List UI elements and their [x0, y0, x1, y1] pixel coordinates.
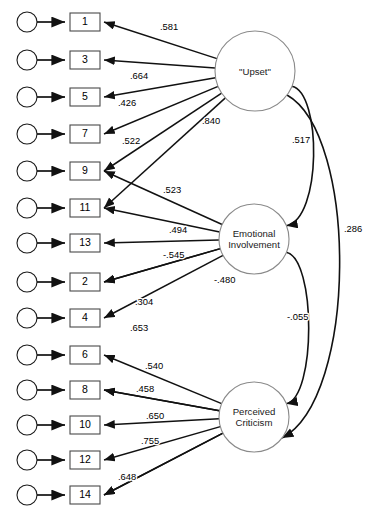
- error-term-layer: [17, 12, 65, 505]
- latent-label-perceived_criticism: Criticism: [236, 417, 273, 428]
- coefficient-cov_upset_ei: .517: [292, 134, 310, 145]
- indicator-label-4: 4: [82, 311, 88, 323]
- indicator-label-8: 8: [82, 383, 88, 395]
- coefficient-i7: .522: [122, 135, 140, 146]
- error-term-circle: [17, 198, 37, 218]
- loading-path-upset-3: [104, 60, 215, 68]
- coefficient-i6: .653: [130, 322, 148, 333]
- indicator-label-14: 14: [79, 488, 91, 500]
- error-term-circle: [17, 345, 37, 365]
- indicator-label-6: 6: [82, 348, 88, 360]
- coefficient-pc_14: .648: [118, 471, 136, 482]
- indicator-label-10: 10: [79, 418, 91, 430]
- cross-loading-path-ei_11: [104, 208, 220, 232]
- coefficient-ei_2b: -.480: [214, 274, 235, 285]
- latent-label-upset: "Upset": [239, 66, 271, 77]
- cross-loading-path-ei_9: [104, 171, 222, 225]
- error-term-circle: [17, 308, 37, 328]
- error-term-circle: [17, 87, 37, 107]
- coefficient-i11: .523: [163, 184, 181, 195]
- loading-path-emotional_involvement-13: [104, 240, 219, 243]
- indicator-label-9: 9: [82, 164, 88, 176]
- coefficient-i1: .581: [160, 21, 178, 32]
- indicator-label-1: 1: [82, 15, 88, 27]
- coefficient-i4: .304: [135, 296, 153, 307]
- error-term-circle: [17, 50, 37, 70]
- indicator-layer: 1357911132468101214: [70, 13, 100, 504]
- covariance-layer: [282, 86, 340, 438]
- error-term-circle: [17, 415, 37, 435]
- coefficient-i8: .540: [145, 360, 163, 371]
- error-term-circle: [17, 272, 37, 292]
- coefficient-i14: .755: [141, 435, 159, 446]
- coefficient-i5: .426: [118, 97, 136, 108]
- diagram-canvas: 1357911132468101214 "Upset"EmotionalInvo…: [0, 0, 373, 527]
- covariance-path-cov_upset_pc: [282, 95, 340, 438]
- latent-label-emotional_involvement: Involvement: [228, 239, 280, 250]
- coefficient-upset-840: .840: [202, 115, 220, 126]
- indicator-label-13: 13: [79, 236, 91, 248]
- coefficient-cov_upset_pc: .286: [344, 223, 362, 234]
- latent-variable-layer: "Upset"EmotionalInvolvementPerceivedCrit…: [215, 31, 295, 452]
- covariance-path-cov_upset_ei: [286, 86, 313, 226]
- error-term-circle: [17, 485, 37, 505]
- latent-label-emotional_involvement: Emotional: [233, 228, 276, 239]
- error-term-circle: [17, 161, 37, 181]
- coefficient-i3: .664: [130, 70, 148, 81]
- cross-loading-path-pc_8: [104, 390, 220, 411]
- error-term-circle: [17, 124, 37, 144]
- indicator-label-11: 11: [80, 201, 91, 213]
- error-term-circle: [17, 380, 37, 400]
- coefficient-i10: .458: [136, 383, 154, 394]
- sem-path-diagram: 1357911132468101214 "Upset"EmotionalInvo…: [0, 0, 373, 527]
- coefficient-i12: .650: [146, 410, 164, 421]
- indicator-label-3: 3: [82, 53, 88, 65]
- error-term-circle: [17, 233, 37, 253]
- covariance-path-cov_ei_pc: [286, 252, 309, 403]
- indicator-label-2: 2: [82, 275, 88, 287]
- error-term-circle: [17, 450, 37, 470]
- coefficient-i2: -.545: [163, 249, 184, 260]
- latent-label-perceived_criticism: Perceived: [233, 406, 276, 417]
- indicator-label-12: 12: [79, 453, 91, 465]
- indicator-label-5: 5: [82, 90, 88, 102]
- indicator-label-7: 7: [82, 127, 88, 139]
- coefficient-cov_ei_pc: -.055: [287, 311, 308, 322]
- coefficient-i13: .494: [169, 224, 187, 235]
- error-term-circle: [17, 12, 37, 32]
